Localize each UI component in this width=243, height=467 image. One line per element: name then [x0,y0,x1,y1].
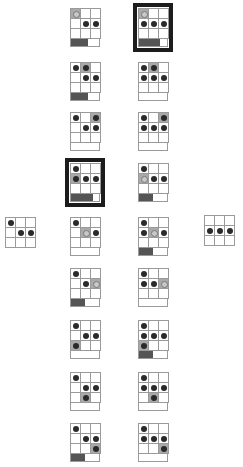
token-grid [70,423,101,454]
ring-icon [151,230,158,237]
grid-cell [16,238,26,248]
dot-icon [141,343,147,349]
grid-cell [149,434,159,444]
grid-cell [139,269,149,279]
token-grid [138,112,169,143]
token-grid [70,320,101,351]
grid-cell [149,393,159,403]
dot-icon [151,436,157,442]
grid-cell [71,393,81,403]
status-bar [138,454,168,462]
grid-cell [71,444,81,454]
grid-cell [81,184,91,194]
grid-cell [159,331,169,341]
token-grid [70,268,101,299]
grid-cell [71,19,81,29]
grid-cell [71,373,81,383]
dot-icon [161,333,167,339]
grid-cell [139,289,149,299]
ring-icon [141,11,148,18]
dot-icon [73,176,79,182]
dot-icon [93,333,99,339]
dot-icon [151,385,157,391]
token-grid [70,112,101,143]
grid-cell [91,434,101,444]
dot-icon [161,385,167,391]
grid-cell [149,63,159,73]
grid-cell [16,218,26,228]
grid-cell [159,279,169,289]
status-bar-fill [71,39,88,46]
grid-cell [91,63,101,73]
grid-cell [91,123,101,133]
grid-cell [91,373,101,383]
grid-cell [81,434,91,444]
grid-cell [71,218,81,228]
card [138,112,168,151]
grid-cell [71,238,81,248]
dot-icon [151,333,157,339]
dot-icon [141,375,147,381]
dot-icon [93,115,99,121]
grid-cell [149,164,159,174]
grid-cell [71,29,81,39]
grid-cell [159,113,169,123]
grid-cell [205,216,215,226]
dot-icon [93,75,99,81]
grid-cell [149,9,159,19]
grid-cell [91,83,101,93]
grid-cell [81,123,91,133]
grid-cell [139,383,149,393]
dot-icon [141,281,147,287]
grid-cell [91,73,101,83]
grid-cell [149,29,159,39]
dot-icon [93,436,99,442]
grid-cell [159,123,169,133]
grid-cell [159,83,169,93]
grid-cell [149,424,159,434]
dot-icon [83,176,89,182]
status-bar-fill [139,351,153,358]
grid-cell [139,444,149,454]
dot-icon [141,220,147,226]
dot-icon [141,21,147,27]
dot-icon [93,21,99,27]
card [70,320,100,359]
dot-icon [93,446,99,452]
token-grid [138,8,169,39]
dot-icon [151,125,157,131]
grid-cell [139,133,149,143]
status-bar [70,39,100,47]
grid-cell [225,226,235,236]
dot-icon [83,385,89,391]
status-bar [70,299,100,307]
grid-cell [91,424,101,434]
grid-cell [139,218,149,228]
dot-icon [161,446,167,452]
grid-cell [81,444,91,454]
dot-icon [83,125,89,131]
dot-icon [93,125,99,131]
grid-cell [139,113,149,123]
status-bar [138,93,168,101]
token-grid [138,320,169,351]
card [70,423,100,462]
grid-cell [71,341,81,351]
grid-cell [81,174,91,184]
dot-icon [141,271,147,277]
grid-cell [26,238,36,248]
status-bar-fill [71,299,85,306]
grid-cell [139,174,149,184]
highlighted-card [138,8,168,47]
status-bar-fill [139,248,153,255]
grid-cell [71,63,81,73]
grid-cell [6,238,16,248]
grid-cell [139,279,149,289]
grid-cell [149,228,159,238]
grid-cell [215,236,225,246]
grid-cell [91,29,101,39]
token-grid [138,62,169,93]
grid-cell [215,216,225,226]
grid-cell [159,133,169,143]
status-bar [70,93,100,101]
